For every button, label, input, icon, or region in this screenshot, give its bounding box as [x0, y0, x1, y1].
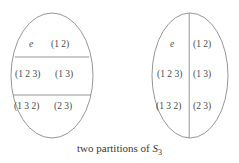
right-cell-row1-col1: e [170, 40, 174, 50]
right-cell-row3-col2: (2 3) [193, 102, 211, 112]
right-cell-row3-col1: (1 3 2) [156, 102, 181, 112]
caption-group-subscript: 3 [158, 148, 162, 157]
right-cell-row2-col1: (1 2 3) [157, 70, 182, 80]
left-cell-row2-col2: (1 3) [55, 70, 73, 80]
left-cell-row1-col2: (1 2) [51, 40, 69, 50]
caption-text: two partitions of [77, 142, 152, 154]
figure-caption: two partitions of S3 [0, 142, 239, 157]
left-cell-row1-col1: e [29, 40, 33, 50]
partition-diagram-svg [0, 0, 239, 163]
right-cell-row1-col2: (1 2) [193, 40, 211, 50]
right-cell-row2-col2: (1 3) [193, 70, 211, 80]
left-cell-row2-col1: (1 2 3) [15, 70, 40, 80]
partition-figure: e (1 2) (1 2 3) (1 3) (1 3 2) (2 3) e (1… [0, 0, 239, 163]
left-cell-row3-col1: (1 3 2) [14, 102, 39, 112]
left-cell-row3-col2: (2 3) [54, 102, 72, 112]
